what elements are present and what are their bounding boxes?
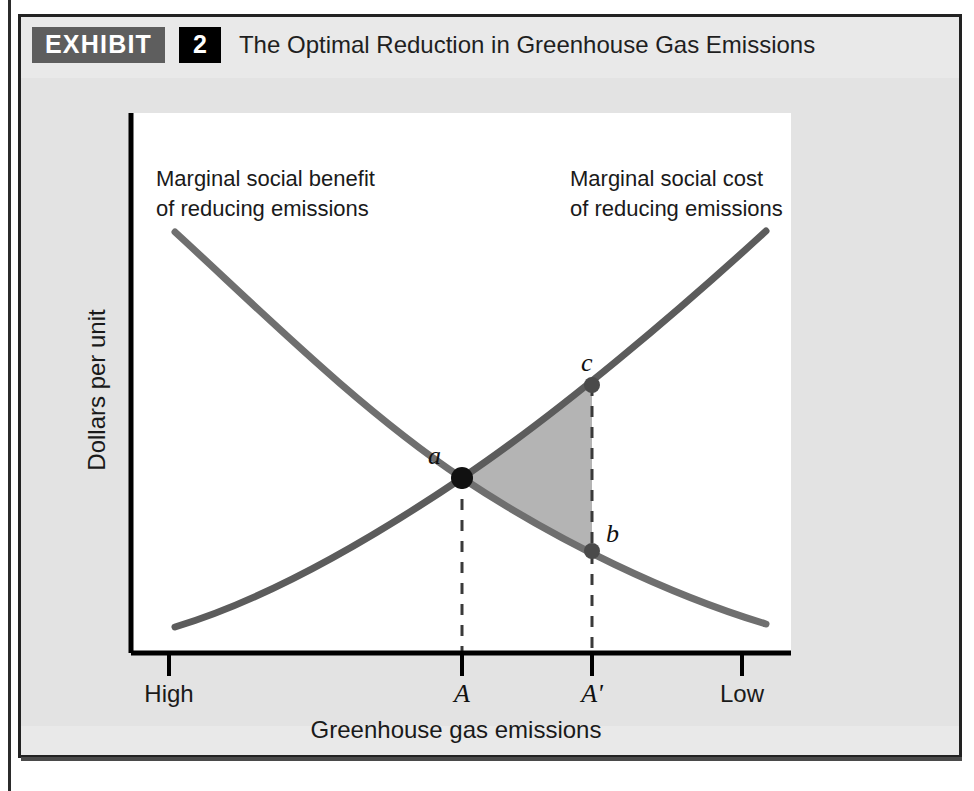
exhibit-number-badge: 2 <box>179 27 221 63</box>
exhibit-title-bar: EXHIBIT 2 The Optimal Reduction in Green… <box>18 14 962 76</box>
page-left-rule <box>8 0 11 791</box>
exhibit-tag-label: EXHIBIT <box>32 27 165 63</box>
exhibit-title-text: The Optimal Reduction in Greenhouse Gas … <box>239 31 815 59</box>
plot-area-background <box>131 113 791 653</box>
exhibit-figure: EXHIBIT 2 The Optimal Reduction in Green… <box>0 0 974 791</box>
card-bottom-rule <box>21 757 962 761</box>
